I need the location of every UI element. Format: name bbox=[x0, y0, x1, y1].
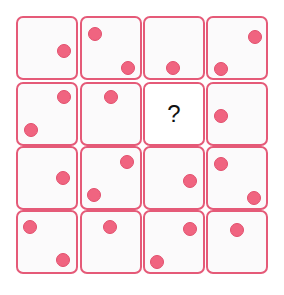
dot-icon bbox=[88, 27, 102, 41]
dot-icon bbox=[56, 253, 70, 267]
puzzle-cell bbox=[16, 82, 78, 146]
dot-icon bbox=[57, 44, 71, 58]
dot-icon bbox=[214, 157, 228, 171]
dot-icon bbox=[247, 191, 261, 205]
dot-icon bbox=[230, 223, 244, 237]
dot-icon bbox=[103, 220, 117, 234]
puzzle-cell bbox=[143, 210, 205, 274]
puzzle-cell bbox=[16, 210, 78, 274]
puzzle-cell bbox=[80, 146, 142, 210]
dot-icon bbox=[150, 255, 164, 269]
dot-icon bbox=[57, 90, 71, 104]
dot-icon bbox=[104, 90, 118, 104]
puzzle-cell bbox=[206, 146, 268, 210]
dot-icon bbox=[24, 123, 38, 137]
puzzle-cell bbox=[206, 16, 268, 80]
dot-icon bbox=[214, 109, 228, 123]
puzzle-cell bbox=[143, 16, 205, 80]
dot-icon bbox=[248, 30, 262, 44]
puzzle-cell bbox=[206, 82, 268, 146]
dot-icon bbox=[23, 220, 37, 234]
puzzle-cell bbox=[80, 210, 142, 274]
dot-icon bbox=[121, 61, 135, 75]
dot-icon bbox=[120, 155, 134, 169]
dot-icon bbox=[87, 188, 101, 202]
puzzle-cell bbox=[143, 146, 205, 210]
puzzle-cell bbox=[16, 146, 78, 210]
puzzle-cell bbox=[80, 82, 142, 146]
puzzle-cell bbox=[80, 16, 142, 80]
puzzle-cell bbox=[16, 16, 78, 80]
question-mark: ? bbox=[145, 84, 203, 144]
dot-icon bbox=[166, 61, 180, 75]
dot-icon bbox=[183, 174, 197, 188]
puzzle-grid: ? bbox=[16, 16, 268, 274]
dot-icon bbox=[56, 171, 70, 185]
dot-icon bbox=[183, 222, 197, 236]
missing-cell[interactable]: ? bbox=[143, 82, 205, 146]
dot-icon bbox=[214, 62, 228, 76]
puzzle-cell bbox=[206, 210, 268, 274]
